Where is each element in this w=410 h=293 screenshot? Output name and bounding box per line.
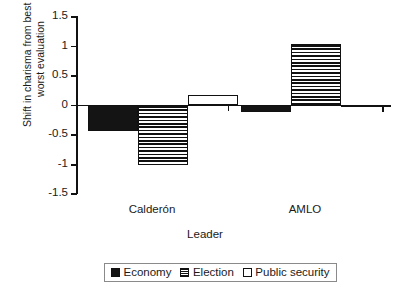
- x-category-label-amlo: AMLO: [245, 203, 365, 215]
- legend-item-economy: Economy: [111, 266, 171, 279]
- bar-calderon-economy: [88, 105, 138, 131]
- horizontal-stripe-swatch-icon: [180, 268, 189, 277]
- x-tick-group-separator: [228, 105, 229, 111]
- y-axis-title: Shift in charisma from best to worst eva…: [17, 0, 51, 159]
- y-tick-label-1.5: 1.5: [52, 9, 68, 22]
- bar-calderon-election: [138, 105, 188, 165]
- y-tick-label-0: 0: [62, 98, 68, 111]
- y-tick-label--1: -1: [58, 157, 68, 170]
- bar-amlo-election: [291, 44, 341, 105]
- bar-chart: Shift in charisma from best to worst eva…: [0, 0, 410, 293]
- legend-label-economy: Economy: [124, 266, 172, 279]
- legend-label-election: Election: [193, 266, 234, 279]
- y-tick-label-1: 1: [62, 39, 68, 52]
- bar-amlo-public-security: [341, 105, 391, 107]
- bar-calderon-public-security: [188, 95, 238, 105]
- y-tick--1.5: -1.5: [71, 193, 77, 195]
- y-axis-title-text: Shift in charisma from best to worst eva…: [21, 0, 47, 127]
- white-outline-swatch-icon: [243, 268, 252, 277]
- y-tick-1: 1: [71, 46, 77, 48]
- legend-item-public-security: Public security: [243, 266, 330, 279]
- x-axis-title: Leader: [0, 228, 410, 240]
- legend-label-public-security: Public security: [255, 266, 329, 279]
- y-tick-label--0.5: -0.5: [48, 127, 68, 140]
- y-tick--0.5: -0.5: [71, 134, 77, 136]
- legend-item-election: Election: [180, 266, 233, 279]
- bar-amlo-economy: [241, 105, 291, 113]
- y-tick--1: -1: [71, 164, 77, 166]
- solid-black-swatch-icon: [111, 268, 120, 277]
- plot-area: 1.5 1 0.5 0 -0.5 -1 -1.5: [76, 16, 384, 194]
- chart-legend: Economy Election Public security: [104, 263, 337, 282]
- y-tick-label-0.5: 0.5: [52, 68, 68, 81]
- y-tick-0.5: 0.5: [71, 75, 77, 77]
- y-tick-1.5: 1.5: [71, 16, 77, 18]
- y-tick-0: 0: [71, 105, 77, 107]
- x-category-label-calderon: Calderón: [92, 203, 212, 215]
- y-tick-label--1.5: -1.5: [48, 186, 68, 199]
